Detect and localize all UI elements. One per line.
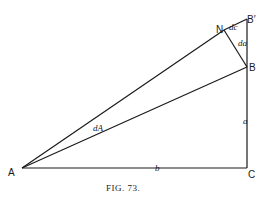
label-dc: dc xyxy=(229,22,238,32)
hypotenuse-AB xyxy=(22,67,247,168)
label-da: da xyxy=(238,38,248,48)
label-a: a xyxy=(243,116,248,126)
label-C: C xyxy=(248,169,255,180)
label-A: A xyxy=(8,167,15,178)
label-N: N xyxy=(216,24,223,35)
triangle-diagram: A C B B′ N b a dA dc da FIG. 73. xyxy=(0,0,267,202)
line-AN xyxy=(22,30,224,168)
figure-caption: FIG. 73. xyxy=(106,183,140,193)
label-dA: dA xyxy=(93,123,104,133)
label-b: b xyxy=(155,163,160,173)
segment-NB xyxy=(224,30,247,67)
label-B: B xyxy=(249,62,256,73)
label-B-prime: B′ xyxy=(247,14,256,25)
